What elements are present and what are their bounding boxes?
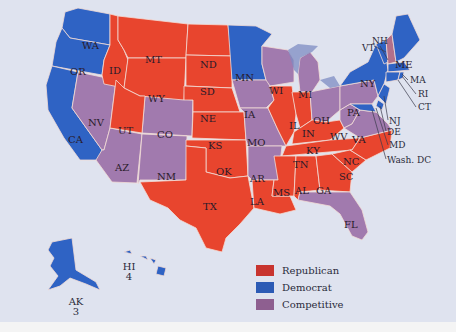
state-de[interactable]: [376, 100, 384, 110]
label-ne: NE: [200, 113, 216, 124]
hawaii-votes: 4: [120, 272, 138, 282]
label-al: AL: [294, 185, 309, 196]
label-ga: GA: [316, 185, 332, 196]
label-mi: MI: [298, 89, 312, 100]
label-wv: WV: [330, 131, 348, 142]
label-nd: ND: [200, 59, 217, 70]
republican-swatch: [256, 265, 274, 276]
label-nm: NM: [157, 171, 176, 182]
competitive-swatch: [256, 299, 274, 310]
hawaii-label: HI 4: [120, 262, 138, 282]
label-wa: WA: [82, 40, 100, 51]
label-ny: NY: [360, 78, 376, 89]
state-ak[interactable]: [48, 238, 100, 290]
legend-item-republican: Republican: [256, 262, 343, 278]
label-sc: SC: [339, 171, 354, 182]
label-mo: MO: [247, 137, 265, 148]
label-nc: NC: [343, 156, 360, 167]
label-me: ME: [395, 59, 413, 70]
label-sd: SD: [200, 86, 215, 97]
label-nh: NH: [372, 36, 388, 46]
legend-item-competitive: Competitive: [256, 296, 343, 312]
label-ca: CA: [68, 134, 84, 145]
label-mn: MN: [235, 72, 254, 83]
label-nj: NJ: [389, 116, 401, 126]
label-in: IN: [302, 128, 315, 139]
state-mt[interactable]: [118, 16, 188, 58]
label-ks: KS: [208, 140, 222, 151]
label-ms: MS: [273, 187, 290, 198]
label-pa: PA: [347, 107, 361, 118]
us-map: WA OR CA ID NV MT WY UT AZ CO NM ND SD N…: [0, 0, 456, 332]
label-az: AZ: [114, 162, 129, 173]
label-or: OR: [70, 66, 86, 77]
label-mt: MT: [145, 54, 162, 65]
label-wi: WI: [269, 85, 283, 96]
legend-label-competitive: Competitive: [282, 299, 343, 310]
label-ok: OK: [216, 166, 232, 177]
legend-label-republican: Republican: [282, 265, 339, 276]
label-tn: TN: [293, 159, 309, 170]
label-il: IL: [289, 120, 300, 131]
state-ct[interactable]: [386, 72, 400, 82]
state-mi[interactable]: [298, 52, 320, 92]
democrat-swatch: [256, 282, 274, 293]
label-id: ID: [109, 65, 121, 76]
legend-label-democrat: Democrat: [282, 282, 332, 293]
label-ky: KY: [306, 145, 320, 156]
alaska-label: AK 3: [64, 297, 88, 317]
label-la: LA: [250, 196, 265, 207]
label-oh: OH: [313, 115, 330, 126]
state-me[interactable]: [392, 14, 420, 62]
alaska-votes: 3: [64, 307, 88, 317]
label-fl: FL: [344, 219, 358, 230]
label-ia: IA: [244, 109, 256, 120]
label-nv: NV: [88, 117, 105, 128]
legend-item-democrat: Democrat: [256, 279, 343, 295]
state-ia[interactable]: [232, 80, 274, 108]
legend: Republican Democrat Competitive: [256, 262, 343, 313]
label-de: DE: [387, 127, 401, 137]
label-ri: RI: [418, 89, 429, 99]
label-va: VA: [351, 134, 367, 145]
label-ma: MA: [410, 75, 426, 85]
label-ut: UT: [118, 125, 133, 136]
state-nd[interactable]: [186, 24, 232, 56]
label-wy: WY: [148, 93, 165, 104]
label-md: MD: [389, 140, 405, 150]
label-ar: AR: [249, 173, 265, 184]
label-dc: Wash. DC: [387, 155, 431, 165]
label-ct: CT: [418, 102, 431, 112]
state-fl[interactable]: [298, 192, 368, 240]
label-tx: TX: [203, 201, 218, 212]
label-co: CO: [157, 129, 173, 140]
